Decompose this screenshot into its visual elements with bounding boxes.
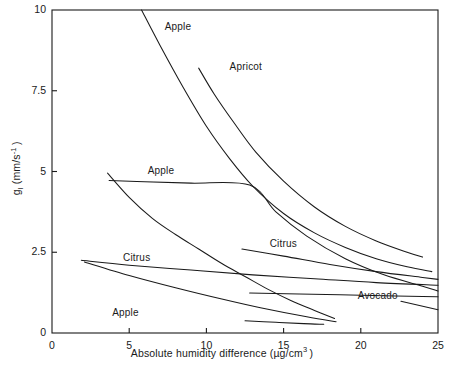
series-curve-apple: [108, 173, 335, 318]
series-label-citrus: Citrus: [123, 252, 150, 263]
plot-frame: [52, 10, 438, 333]
y-tick-label: 0: [6, 326, 46, 338]
series-curve-apple: [142, 10, 432, 272]
series-curve-citrus: [242, 249, 438, 279]
x-tick-label: 5: [109, 339, 149, 351]
series-label-apple: Apple: [148, 165, 175, 176]
x-tick-label: 10: [186, 339, 226, 351]
series-label-avocado: Avocado: [358, 290, 398, 301]
series-curve-avocado-leader: [401, 301, 438, 309]
series-curve-apple-lower-short: [245, 321, 324, 325]
series-label-citrus: Citrus: [270, 238, 297, 249]
y-tick-label: 10: [6, 3, 46, 15]
series-label-apple: Apple: [165, 21, 192, 32]
x-tick-label: 20: [341, 339, 381, 351]
x-tick-label: 25: [418, 339, 449, 351]
y-tick-label: 2.5: [6, 245, 46, 257]
y-tick-label: 5: [6, 165, 46, 177]
series-curve-apple: [109, 181, 438, 291]
series-label-apple: Apple: [112, 307, 139, 318]
x-tick-label: 15: [264, 339, 304, 351]
series-label-apricot: Apricot: [230, 61, 263, 72]
x-tick-label: 0: [32, 339, 72, 351]
y-tick-label: 7.5: [6, 84, 46, 96]
